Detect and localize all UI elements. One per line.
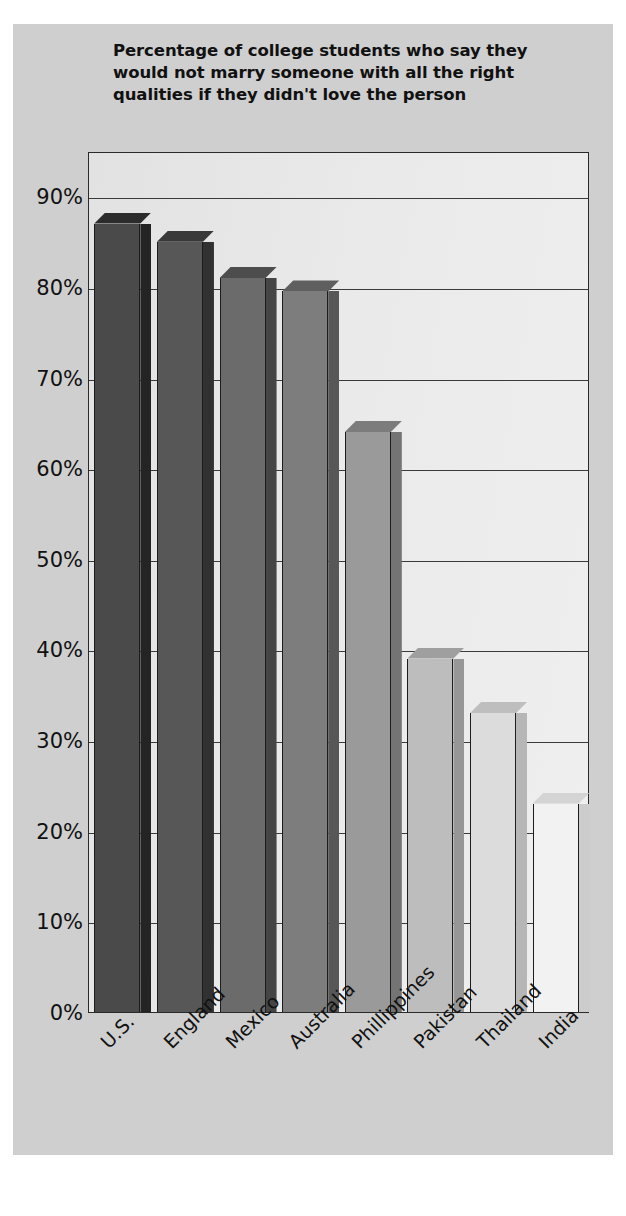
y-tick-label-40: 40% xyxy=(13,638,83,662)
bar-top-face xyxy=(220,267,277,278)
bar-india xyxy=(533,804,579,1012)
bar-phillippines xyxy=(345,432,391,1012)
y-tick-label-30: 30% xyxy=(13,729,83,753)
y-tick-label-80: 80% xyxy=(13,276,83,300)
bar-side-face xyxy=(516,713,527,1012)
bar-front-face xyxy=(407,659,453,1012)
bar-side-face xyxy=(391,432,402,1012)
bar-side-face xyxy=(140,224,151,1012)
bar-side-face xyxy=(579,804,590,1012)
y-tick-label-50: 50% xyxy=(13,548,83,572)
y-tick-label-70: 70% xyxy=(13,367,83,391)
bar-side-face xyxy=(266,278,277,1012)
y-tick-label-20: 20% xyxy=(13,820,83,844)
bar-top-face xyxy=(282,280,339,291)
x-axis-labels: U.S.EnglandMexicoAustraliaPhillippinesPa… xyxy=(88,1019,589,1169)
bar-top-face xyxy=(533,793,590,804)
bar-australia xyxy=(282,291,328,1012)
chart-card: Percentage of college students who say t… xyxy=(13,24,613,1155)
bar-top-face xyxy=(407,648,464,659)
chart-title: Percentage of college students who say t… xyxy=(113,40,583,105)
bar-series xyxy=(89,153,588,1012)
bar-front-face xyxy=(282,291,328,1012)
bar-mexico xyxy=(220,278,266,1012)
chart-page: Percentage of college students who say t… xyxy=(0,0,626,1216)
bar-england xyxy=(157,242,203,1012)
bar-front-face xyxy=(220,278,266,1012)
plot-area xyxy=(88,152,589,1013)
bar-side-face xyxy=(203,242,214,1012)
bar-side-face xyxy=(453,659,464,1012)
y-tick-label-0: 0% xyxy=(13,1001,83,1025)
bar-top-face xyxy=(94,213,151,224)
bar-top-face xyxy=(345,421,402,432)
bar-top-face xyxy=(157,231,214,242)
y-tick-label-60: 60% xyxy=(13,457,83,481)
bar-thailand xyxy=(470,713,516,1012)
bar-side-face xyxy=(328,291,339,1012)
y-tick-label-10: 10% xyxy=(13,910,83,934)
bar-front-face xyxy=(94,224,140,1012)
bar-top-face xyxy=(470,702,527,713)
bar-front-face xyxy=(470,713,516,1012)
bar-front-face xyxy=(345,432,391,1012)
bar-front-face xyxy=(533,804,579,1012)
bar-pakistan xyxy=(407,659,453,1012)
y-axis: 0%10%20%30%40%50%60%70%80%90% xyxy=(13,152,83,1013)
bar-front-face xyxy=(157,242,203,1012)
y-tick-label-90: 90% xyxy=(13,185,83,209)
x-tick-label-us: U.S. xyxy=(96,1010,138,1052)
bar-us xyxy=(94,224,140,1012)
